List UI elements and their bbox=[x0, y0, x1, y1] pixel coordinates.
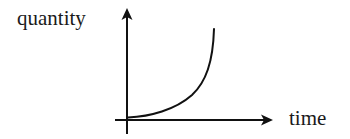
x-axis-label: time bbox=[289, 108, 326, 129]
exponential-growth-diagram: quantity time bbox=[0, 0, 350, 139]
growth-curve bbox=[128, 29, 214, 118]
y-axis-label: quantity bbox=[17, 8, 86, 29]
